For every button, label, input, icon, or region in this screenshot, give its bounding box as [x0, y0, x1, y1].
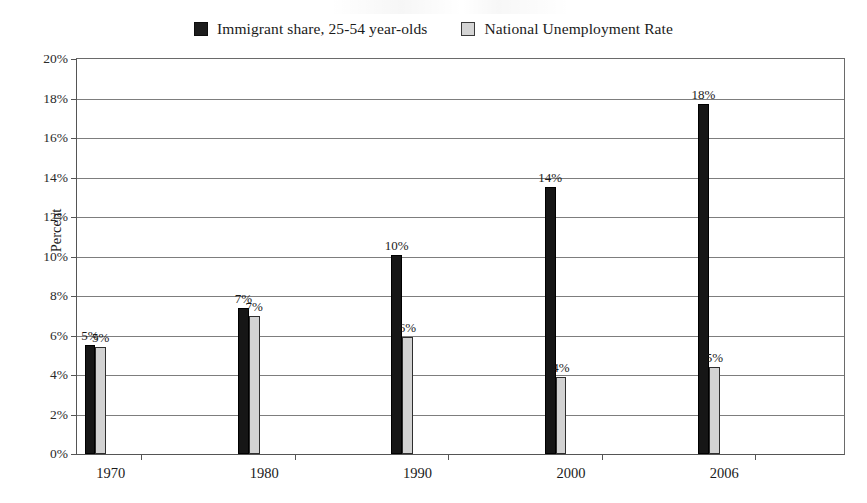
- bar-light-1980: 7%: [249, 316, 260, 454]
- y-tick-label: 20%: [43, 51, 68, 67]
- x-tick-label-2000: 2000: [556, 465, 585, 482]
- x-tick-label-1990: 1990: [403, 465, 432, 482]
- legend-swatch-dark-icon: [194, 22, 208, 36]
- y-tick-label: 8%: [50, 288, 68, 304]
- bar-light-2000: 4%: [556, 377, 567, 454]
- bar-dark-2006: 18%: [698, 104, 709, 454]
- bar-light-2006: 5%: [709, 367, 720, 454]
- y-tick-label: 18%: [43, 91, 68, 107]
- y-tick-label: 0%: [50, 446, 68, 462]
- bar-group: 5%5%1970: [77, 59, 230, 454]
- bar-value-label: 14%: [538, 170, 562, 186]
- y-tick-label: 10%: [43, 249, 68, 265]
- y-tick-label: 16%: [43, 130, 68, 146]
- bar-groups: 5%5%19707%7%198010%6%199014%4%200018%5%2…: [77, 59, 844, 454]
- legend-label: National Unemployment Rate: [484, 20, 673, 38]
- y-axis-title: Percent: [48, 171, 65, 291]
- bar-value-label: 5%: [706, 350, 723, 366]
- y-tick-label: 6%: [50, 328, 68, 344]
- bar-value-label: 18%: [692, 87, 716, 103]
- x-tick-mark: [448, 454, 449, 460]
- plot-area: 0%2%4%6%8%10%12%14%16%18%20% 5%5%19707%7…: [76, 58, 845, 455]
- bar-value-label: 6%: [399, 320, 416, 336]
- bar-group: 10%6%1990: [384, 59, 537, 454]
- y-tick-label: 4%: [50, 367, 68, 383]
- bar-value-label: 10%: [385, 238, 409, 254]
- y-tick-label: 12%: [43, 209, 68, 225]
- bar-group: 18%5%2006: [691, 59, 844, 454]
- bar-value-label: 4%: [552, 360, 569, 376]
- bar-group: 14%4%2000: [537, 59, 690, 454]
- bar-value-label: 7%: [245, 299, 262, 315]
- x-tick-label-1980: 1980: [250, 465, 279, 482]
- y-tick-label: 2%: [50, 407, 68, 423]
- bar-light-1990: 6%: [402, 337, 413, 454]
- chart-legend: Immigrant share, 25-54 year-oldsNational…: [0, 20, 867, 38]
- y-tick-label: 14%: [43, 170, 68, 186]
- bar-group: 7%7%1980: [230, 59, 383, 454]
- legend-entry: National Unemployment Rate: [461, 20, 673, 38]
- scan-artifact: [330, 0, 570, 14]
- x-tick-mark: [141, 454, 142, 460]
- chart-figure: Immigrant share, 25-54 year-oldsNational…: [0, 0, 867, 503]
- bar-light-1970: 5%: [95, 347, 106, 454]
- bar-dark-2000: 14%: [545, 187, 556, 454]
- x-tick-mark: [755, 454, 756, 460]
- legend-entry: Immigrant share, 25-54 year-olds: [194, 20, 427, 38]
- bar-dark-1990: 10%: [391, 255, 402, 454]
- bar-dark-1970: 5%: [85, 345, 96, 454]
- legend-swatch-light-icon: [461, 22, 475, 36]
- legend-label: Immigrant share, 25-54 year-olds: [217, 20, 427, 38]
- x-tick-mark: [295, 454, 296, 460]
- x-tick-label-2006: 2006: [710, 465, 739, 482]
- x-tick-mark: [602, 454, 603, 460]
- y-tick-mark: [71, 454, 77, 455]
- bar-value-label: 5%: [92, 330, 109, 346]
- x-tick-label-1970: 1970: [96, 465, 125, 482]
- bar-dark-1980: 7%: [238, 308, 249, 454]
